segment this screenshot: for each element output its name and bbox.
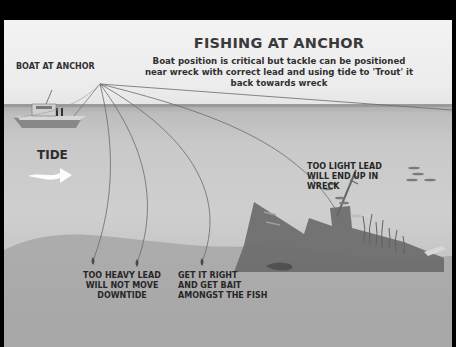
get-it-right-line-1: GET IT RIGHT <box>178 271 268 281</box>
diagram-subtitle: Boat position is critical but tackle can… <box>144 56 414 89</box>
boat-label: BOAT AT ANCHOR <box>16 62 95 71</box>
diagram-title: FISHING AT ANCHOR <box>154 35 404 51</box>
diagram-panel: FISHING AT ANCHOR Boat position is criti… <box>4 20 452 347</box>
tide-arrow-icon <box>28 168 72 183</box>
boat-icon <box>14 84 100 128</box>
too-heavy-line-3: DOWNTIDE <box>72 291 172 301</box>
get-it-right-line-2: AND GET BAIT <box>178 281 268 291</box>
too-light-label: TOO LIGHT LEAD WILL END UP IN WRECK <box>307 162 382 192</box>
tide-label: TIDE <box>37 148 68 162</box>
too-heavy-line-2: WILL NOT MOVE <box>72 281 172 291</box>
too-light-line-3: WRECK <box>307 182 382 192</box>
get-it-right-line-3: AMONGST THE FISH <box>178 291 268 301</box>
too-heavy-line-1: TOO HEAVY LEAD <box>72 271 172 281</box>
too-heavy-label: TOO HEAVY LEAD WILL NOT MOVE DOWNTIDE <box>72 271 172 301</box>
too-light-line-2: WILL END UP IN <box>307 172 382 182</box>
get-it-right-label: GET IT RIGHT AND GET BAIT AMONGST THE FI… <box>178 271 268 301</box>
too-light-line-1: TOO LIGHT LEAD <box>307 162 382 172</box>
